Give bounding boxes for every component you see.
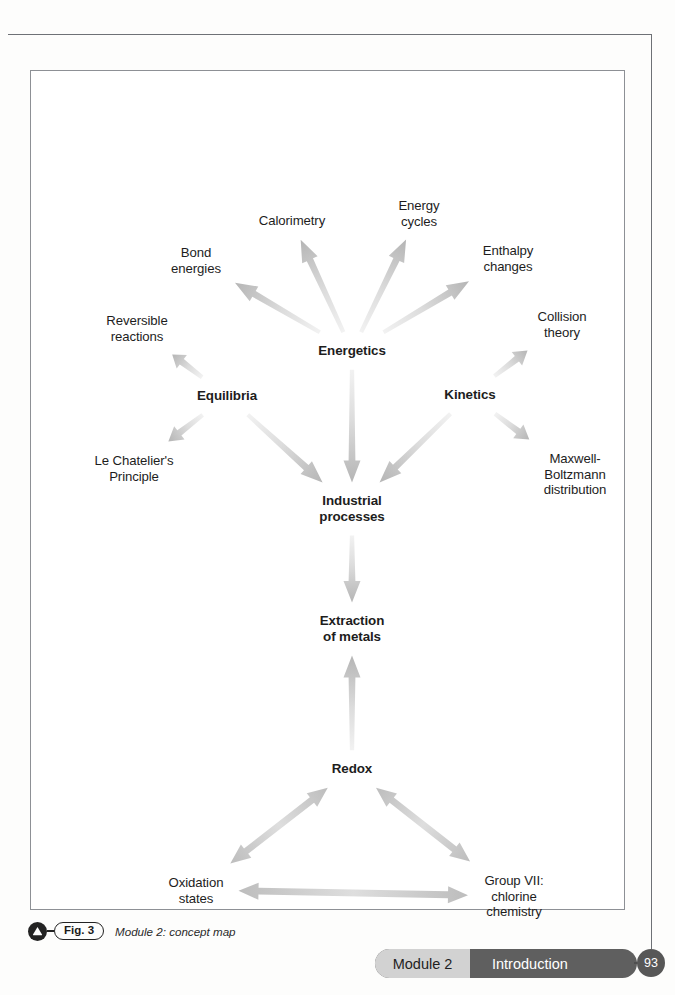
- concept-arrow-kinetics-to-industrial: [374, 408, 457, 489]
- figure-badge-connector: [47, 930, 54, 932]
- concept-node-industrial: Industrial processes: [319, 493, 384, 525]
- concept-map-arrow-layer: [30, 70, 625, 910]
- concept-node-kinetics: Kinetics: [444, 387, 495, 403]
- concept-node-redox: Redox: [332, 761, 372, 777]
- concept-node-calorimetry: Calorimetry: [259, 213, 325, 229]
- concept-arrow-redox-to-extraction: [344, 656, 361, 751]
- concept-arrow-energetics-to-bond-energies: [231, 275, 324, 339]
- concept-node-bond-energies: Bond energies: [171, 245, 221, 276]
- page-number: 93: [637, 949, 665, 977]
- concept-arrow-oxidation-to-group-vii: [238, 882, 468, 903]
- concept-arrow-redox-to-group-vii: [371, 781, 476, 868]
- concept-node-energetics: Energetics: [318, 343, 385, 359]
- figure-label: Fig. 3: [54, 922, 104, 940]
- concept-node-reversible: Reversible reactions: [106, 313, 167, 344]
- concept-arrow-equilibria-to-industrial: [242, 408, 328, 488]
- concept-arrow-redox-to-oxidation: [225, 781, 333, 870]
- concept-node-maxwell: Maxwell- Boltzmann distribution: [544, 451, 607, 498]
- footer-running-tab: Module 2 Introduction: [375, 949, 637, 978]
- concept-arrow-kinetics-to-collision: [489, 344, 533, 383]
- concept-node-enthalpy: Enthalpy changes: [483, 243, 534, 274]
- concept-arrow-equilibria-to-reversible: [167, 348, 207, 384]
- concept-map-diagram: CalorimetryEnergy cyclesBond energiesEnt…: [30, 70, 625, 910]
- concept-arrow-equilibria-to-le-chatelier: [163, 408, 208, 448]
- page-rule-right: [651, 34, 652, 949]
- concept-node-group-vii: Group VII: chlorine chemistry: [484, 873, 543, 920]
- figure-caption: Fig. 3 Module 2: concept map: [28, 919, 236, 943]
- concept-node-equilibria: Equilibria: [197, 388, 257, 404]
- concept-node-oxidation: Oxidation states: [169, 875, 224, 906]
- concept-node-le-chatelier: Le Chatelier's Principle: [95, 453, 174, 484]
- concept-node-collision: Collision theory: [538, 309, 587, 340]
- concept-arrow-industrial-to-extraction: [344, 536, 361, 603]
- footer-module-label: Module 2: [375, 949, 470, 978]
- book-page: CalorimetryEnergy cyclesBond energiesEnt…: [0, 0, 675, 995]
- footer-section-label: Introduction: [470, 949, 637, 978]
- page-rule-top: [8, 34, 652, 35]
- triangle-badge-icon: [28, 922, 47, 941]
- concept-node-extraction: Extraction of metals: [320, 613, 384, 645]
- concept-arrow-energetics-to-enthalpy: [379, 274, 473, 340]
- concept-arrow-kinetics-to-maxwell: [490, 407, 535, 446]
- figure-caption-text: Module 2: concept map: [115, 925, 236, 938]
- concept-arrow-energetics-to-industrial: [344, 370, 361, 483]
- concept-node-energy-cycles: Energy cycles: [398, 198, 439, 229]
